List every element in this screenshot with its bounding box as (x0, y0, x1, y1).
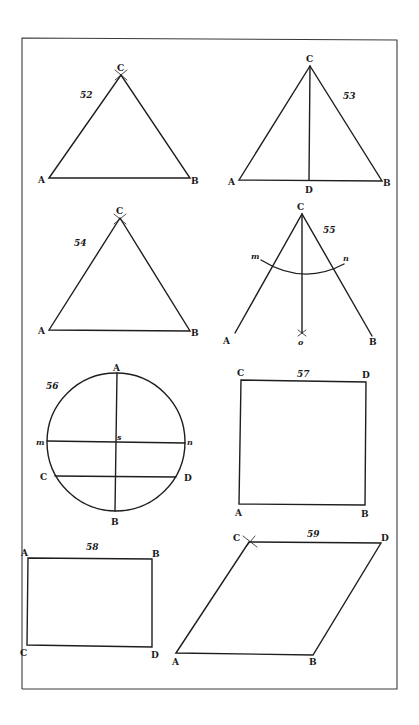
label-C: C (117, 63, 124, 73)
label-A: A (20, 548, 29, 558)
triangle-54 (49, 218, 190, 331)
figure-52: C A B 52 (37, 63, 199, 186)
angle-ACB (235, 214, 372, 336)
label-B: B (152, 549, 160, 559)
figure-number: 54 (74, 238, 87, 248)
label-B: B (369, 337, 377, 347)
label-D: D (305, 185, 313, 195)
triangle-52 (49, 75, 190, 178)
diameter-mn (47, 441, 185, 443)
label-A: A (234, 508, 243, 518)
label-A: A (171, 657, 180, 667)
label-A: A (37, 175, 46, 185)
label-B: B (191, 176, 199, 186)
chord-CD (55, 476, 176, 477)
figure-56: A B C D m n s 56 (36, 363, 193, 527)
figure-number: 53 (343, 91, 356, 101)
label-m: m (36, 437, 44, 447)
figure-number: 58 (86, 542, 99, 552)
label-A: A (227, 177, 236, 187)
rectangle-58 (27, 558, 152, 647)
label-D: D (151, 650, 159, 660)
figure-54: C A B 54 (37, 206, 199, 338)
label-B: B (361, 509, 369, 519)
altitude-CD (309, 66, 310, 180)
label-s: s (117, 432, 122, 442)
label-n: n (187, 437, 193, 447)
label-D: D (184, 473, 192, 483)
label-C: C (233, 533, 240, 543)
label-C: C (116, 206, 123, 216)
rhombus-59 (176, 542, 381, 655)
label-A: A (112, 363, 121, 373)
label-D: D (362, 370, 370, 380)
label-C: C (40, 472, 47, 482)
label-B: B (111, 517, 119, 527)
figure-number: 59 (307, 529, 320, 539)
label-o: o (298, 337, 304, 347)
label-C: C (237, 368, 244, 378)
figure-59: C D A B 59 (171, 529, 389, 667)
figure-number: 56 (46, 381, 59, 391)
label-n: n (343, 253, 349, 263)
figure-number: 57 (297, 369, 310, 379)
label-A: A (37, 326, 46, 336)
label-B: B (309, 657, 317, 667)
figure-58: A B C D 58 (20, 542, 160, 660)
label-A: A (222, 336, 231, 346)
label-C: C (297, 202, 304, 212)
figure-55: C A B m n o 55 (222, 202, 377, 347)
figure-number: 52 (80, 90, 93, 100)
figure-number: 55 (323, 225, 336, 235)
label-D: D (381, 533, 389, 543)
label-m: m (251, 251, 259, 261)
square-57 (239, 380, 366, 505)
geometry-plate: C A B 52 C A B D 53 C A B 54 C A B m n o… (0, 0, 419, 725)
label-C: C (20, 648, 27, 658)
figure-53: C A B D 53 (227, 54, 391, 195)
figure-57: C D A B 57 (234, 368, 370, 519)
label-B: B (191, 328, 199, 338)
label-B: B (383, 178, 391, 188)
label-C: C (306, 54, 313, 64)
